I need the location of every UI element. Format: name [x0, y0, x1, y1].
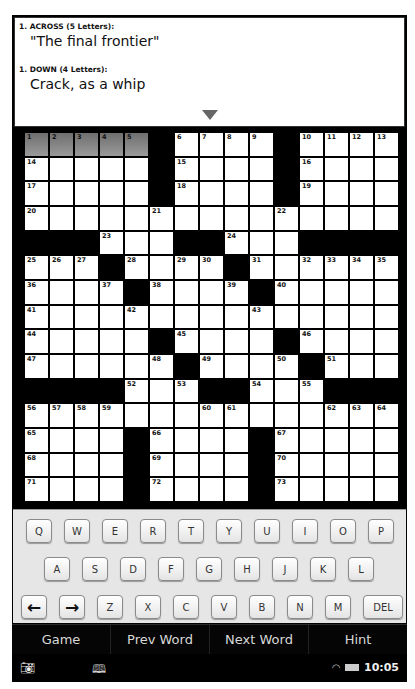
- grid-cell[interactable]: [99, 477, 124, 502]
- grid-cell[interactable]: 59: [99, 403, 124, 428]
- grid-cell[interactable]: [299, 305, 324, 330]
- key-x[interactable]: X: [135, 595, 161, 619]
- grid-cell[interactable]: [99, 354, 124, 379]
- grid-cell[interactable]: [49, 305, 74, 330]
- key-e[interactable]: E: [102, 519, 128, 543]
- grid-cell[interactable]: [149, 255, 174, 280]
- grid-cell[interactable]: [374, 453, 399, 478]
- grid-cell[interactable]: [349, 280, 374, 305]
- key-j[interactable]: J: [272, 557, 298, 581]
- grid-cell[interactable]: [249, 157, 274, 182]
- grid-cell[interactable]: [299, 428, 324, 453]
- grid-cell[interactable]: [74, 329, 99, 354]
- grid-cell[interactable]: [199, 206, 224, 231]
- grid-cell[interactable]: 64: [374, 403, 399, 428]
- grid-cell[interactable]: 43: [249, 305, 274, 330]
- grid-cell[interactable]: [199, 477, 224, 502]
- menu-next-word[interactable]: Next Word: [210, 625, 309, 654]
- key-b[interactable]: B: [249, 595, 275, 619]
- grid-cell[interactable]: [74, 280, 99, 305]
- grid-cell[interactable]: 66: [149, 428, 174, 453]
- key-p[interactable]: P: [368, 519, 394, 543]
- grid-cell[interactable]: [249, 181, 274, 206]
- grid-cell[interactable]: 21: [149, 206, 174, 231]
- grid-cell[interactable]: 65: [24, 428, 49, 453]
- grid-cell[interactable]: [174, 305, 199, 330]
- grid-cell[interactable]: [99, 329, 124, 354]
- grid-cell[interactable]: [349, 329, 374, 354]
- grid-cell[interactable]: 3: [74, 132, 99, 157]
- grid-cell[interactable]: 55: [299, 379, 324, 404]
- grid-cell[interactable]: [374, 354, 399, 379]
- grid-cell[interactable]: [324, 453, 349, 478]
- grid-cell[interactable]: [324, 280, 349, 305]
- grid-cell[interactable]: [174, 403, 199, 428]
- key-a[interactable]: A: [44, 557, 70, 581]
- key-y[interactable]: Y: [216, 519, 242, 543]
- grid-cell[interactable]: 17: [24, 181, 49, 206]
- grid-cell[interactable]: [224, 206, 249, 231]
- grid-cell[interactable]: 22: [274, 206, 299, 231]
- key-t[interactable]: T: [178, 519, 204, 543]
- grid-cell[interactable]: [374, 157, 399, 182]
- grid-cell[interactable]: [74, 157, 99, 182]
- key-o[interactable]: O: [330, 519, 356, 543]
- grid-cell[interactable]: 24: [224, 231, 249, 256]
- grid-cell[interactable]: 36: [24, 280, 49, 305]
- grid-cell[interactable]: 32: [299, 255, 324, 280]
- grid-cell[interactable]: [199, 181, 224, 206]
- grid-cell[interactable]: [224, 354, 249, 379]
- grid-cell[interactable]: [299, 403, 324, 428]
- grid-cell[interactable]: 45: [174, 329, 199, 354]
- grid-cell[interactable]: 53: [174, 379, 199, 404]
- grid-cell[interactable]: 9: [249, 132, 274, 157]
- grid-cell[interactable]: [349, 157, 374, 182]
- grid-cell[interactable]: [149, 379, 174, 404]
- grid-cell[interactable]: [74, 206, 99, 231]
- grid-cell[interactable]: [174, 477, 199, 502]
- grid-cell[interactable]: [224, 477, 249, 502]
- grid-cell[interactable]: 10: [299, 132, 324, 157]
- key-k[interactable]: K: [310, 557, 336, 581]
- grid-cell[interactable]: [49, 428, 74, 453]
- grid-cell[interactable]: [349, 428, 374, 453]
- grid-cell[interactable]: [124, 231, 149, 256]
- grid-cell[interactable]: [49, 280, 74, 305]
- key-q[interactable]: Q: [26, 519, 52, 543]
- grid-cell[interactable]: 5: [124, 132, 149, 157]
- grid-cell[interactable]: [74, 477, 99, 502]
- grid-cell[interactable]: 46: [299, 329, 324, 354]
- grid-cell[interactable]: 11: [324, 132, 349, 157]
- clue-panel[interactable]: 1. ACROSS (5 Letters): "The final fronti…: [14, 17, 405, 127]
- key-w[interactable]: W: [64, 519, 90, 543]
- grid-cell[interactable]: [324, 477, 349, 502]
- grid-cell[interactable]: [49, 354, 74, 379]
- grid-cell[interactable]: [174, 206, 199, 231]
- grid-cell[interactable]: [124, 403, 149, 428]
- grid-cell[interactable]: [224, 181, 249, 206]
- expand-arrow-icon[interactable]: [202, 110, 218, 120]
- grid-cell[interactable]: 42: [124, 305, 149, 330]
- grid-cell[interactable]: [249, 329, 274, 354]
- grid-cell[interactable]: [249, 403, 274, 428]
- grid-cell[interactable]: 62: [324, 403, 349, 428]
- grid-cell[interactable]: 58: [74, 403, 99, 428]
- grid-cell[interactable]: 52: [124, 379, 149, 404]
- grid-cell[interactable]: [199, 157, 224, 182]
- grid-cell[interactable]: [99, 453, 124, 478]
- grid-cell[interactable]: 2: [49, 132, 74, 157]
- key-f[interactable]: F: [158, 557, 184, 581]
- grid-cell[interactable]: 63: [349, 403, 374, 428]
- menu-hint[interactable]: Hint: [309, 625, 407, 654]
- grid-cell[interactable]: [74, 354, 99, 379]
- crossword-grid[interactable]: 1234567891011121314151617181920212223242…: [24, 132, 399, 502]
- grid-cell[interactable]: [124, 329, 149, 354]
- grid-cell[interactable]: 60: [199, 403, 224, 428]
- grid-cell[interactable]: [199, 280, 224, 305]
- grid-cell[interactable]: [349, 453, 374, 478]
- grid-cell[interactable]: [324, 305, 349, 330]
- grid-cell[interactable]: 14: [24, 157, 49, 182]
- grid-cell[interactable]: [224, 329, 249, 354]
- grid-cell[interactable]: [99, 181, 124, 206]
- grid-cell[interactable]: 48: [149, 354, 174, 379]
